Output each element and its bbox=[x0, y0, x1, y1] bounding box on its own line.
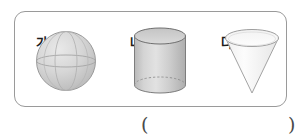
cone-icon bbox=[222, 27, 282, 97]
cylinder-icon bbox=[132, 27, 188, 95]
worksheet-figure: 가 나 bbox=[0, 0, 305, 140]
answer-close-paren: ) bbox=[288, 112, 295, 136]
answer-open-paren: ( bbox=[141, 112, 148, 136]
sphere-icon bbox=[35, 29, 97, 93]
solids-box: 가 나 bbox=[14, 11, 287, 107]
answer-blank[interactable]: ( ) bbox=[130, 112, 298, 136]
